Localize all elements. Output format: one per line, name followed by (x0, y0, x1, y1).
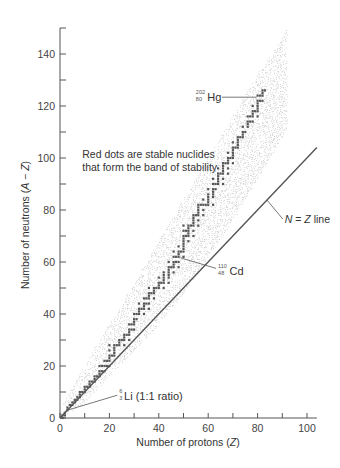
stable-nuclide-point (182, 238, 184, 240)
stable-nuclide-point (140, 308, 142, 310)
stable-nuclide-point (143, 297, 145, 299)
y-tick-label: 100 (37, 152, 55, 164)
stable-nuclide-point (217, 183, 219, 185)
stable-nuclide-point (178, 261, 180, 263)
stable-nuclide-point (212, 191, 214, 193)
stable-nuclide-point (212, 204, 214, 206)
stable-nuclide-point (131, 329, 133, 331)
stable-nuclide-point (79, 394, 81, 396)
stable-nuclide-point (163, 287, 165, 289)
y-tick-label: 20 (43, 360, 55, 372)
stable-nuclide-point (257, 95, 259, 97)
stable-nuclide-point (197, 214, 199, 216)
stable-nuclide-point (222, 183, 224, 185)
stable-nuclide-point (79, 391, 81, 393)
stable-nuclide-point (207, 199, 209, 201)
stable-nuclide-point (178, 266, 180, 268)
stable-nuclide-point (259, 100, 261, 102)
stable-nuclide-point (227, 160, 229, 162)
stable-nuclide-point (108, 365, 110, 367)
stable-nuclide-point (215, 183, 217, 185)
stable-nuclide-point (113, 347, 115, 349)
stable-nuclide-point (160, 282, 162, 284)
stable-nuclide-point (192, 219, 194, 221)
stable-nuclide-point (64, 412, 66, 414)
stable-nuclide-point (173, 264, 175, 266)
stable-nuclide-point (249, 121, 251, 123)
stable-nuclide-point (148, 308, 150, 310)
stable-nuclide-point (118, 339, 120, 341)
stable-nuclide-point (175, 261, 177, 263)
stable-nuclide-point (133, 318, 135, 320)
stable-nuclide-point (192, 230, 194, 232)
x-tick-label: 60 (202, 422, 214, 434)
stable-nuclide-point (138, 313, 140, 315)
stable-nuclide-point (138, 308, 140, 310)
x-tick-label: 40 (153, 422, 165, 434)
stable-nuclide-point (182, 248, 184, 250)
stable-nuclide-point (108, 355, 110, 357)
stable-nuclide-point (237, 136, 239, 138)
stable-nuclide-point (195, 214, 197, 216)
svg-text:80: 80 (196, 96, 202, 102)
stable-nuclide-point (185, 235, 187, 237)
stable-nuclide-point (244, 131, 246, 133)
stable-nuclide-point (123, 336, 125, 338)
stable-nuclide-point (232, 141, 234, 143)
stable-nuclide-point (103, 365, 105, 367)
stable-nuclide-point (153, 292, 155, 294)
stable-nuclide-point (232, 157, 234, 159)
stable-nuclide-point (133, 313, 135, 315)
stable-nuclide-point (212, 196, 214, 198)
stable-nuclide-point (81, 391, 83, 393)
y-axis-title: Number of neutrons (A − Z) (19, 161, 31, 289)
svg-text:Li (1:1 ratio): Li (1:1 ratio) (124, 390, 183, 402)
stable-nuclide-point (190, 225, 192, 227)
stable-nuclide-point (187, 240, 189, 242)
stable-nuclide-point (207, 193, 209, 195)
stability-note-line: Red dots are stable nuclides (82, 148, 215, 160)
stable-nuclide-point (178, 256, 180, 258)
stable-nuclide-point (173, 266, 175, 268)
stable-nuclide-point (113, 344, 115, 346)
stable-nuclide-point (133, 321, 135, 323)
stable-nuclide-point (74, 401, 76, 403)
stable-nuclide-point (113, 355, 115, 357)
stable-nuclide-point (173, 261, 175, 263)
stable-nuclide-point (168, 261, 170, 263)
stable-nuclide-point (202, 204, 204, 206)
stable-nuclide-point (168, 271, 170, 273)
stable-nuclide-point (227, 152, 229, 154)
stable-nuclide-point (145, 303, 147, 305)
stable-nuclide-point (217, 167, 219, 169)
stable-nuclide-point (182, 245, 184, 247)
stable-nuclide-point (163, 271, 165, 273)
stable-nuclide-point (84, 388, 86, 390)
stable-nuclide-point (136, 318, 138, 320)
stable-nuclide-point (257, 100, 259, 102)
stable-nuclide-point (192, 214, 194, 216)
stable-nuclide-point (98, 370, 100, 372)
stable-nuclide-point (252, 121, 254, 123)
stable-nuclide-point (163, 282, 165, 284)
stable-nuclide-point (143, 313, 145, 315)
stable-nuclide-point (252, 113, 254, 115)
stable-nuclide-point (178, 251, 180, 253)
stable-nuclide-point (247, 123, 249, 125)
stable-nuclide-point (207, 204, 209, 206)
stable-nuclide-point (91, 381, 93, 383)
svg-text:6: 6 (119, 388, 122, 394)
y-tick-label: 60 (43, 256, 55, 268)
stable-nuclide-point (153, 297, 155, 299)
stable-nuclide-point (242, 126, 244, 128)
svg-text:Cd: Cd (229, 265, 243, 277)
stable-nuclide-point (259, 95, 261, 97)
stable-nuclide-point (187, 227, 189, 229)
stable-nuclide-point (207, 201, 209, 203)
stable-nuclide-point (143, 305, 145, 307)
stable-nuclide-point (101, 370, 103, 372)
stable-nuclide-point (148, 287, 150, 289)
band-of-stability-chart: 020406080100020406080100120140 20280Hg11… (0, 0, 340, 468)
stable-nuclide-point (197, 206, 199, 208)
stable-nuclide-point (232, 147, 234, 149)
